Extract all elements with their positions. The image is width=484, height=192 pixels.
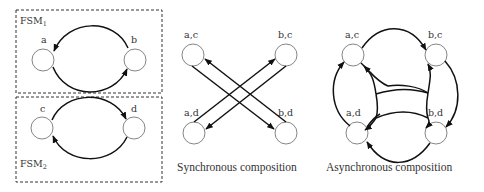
state-c (31, 117, 53, 139)
async-inner-right (427, 93, 429, 118)
sync-state-bc (275, 44, 297, 66)
state-b (124, 49, 146, 71)
sync-caption: Synchronous composition (177, 161, 297, 174)
sync-state-ac (182, 44, 204, 66)
state-d (123, 117, 145, 139)
async-transition-bc-to-bd (445, 61, 458, 127)
async-inner-bottom (376, 112, 428, 118)
sync-label-ad: a,d (184, 107, 199, 118)
sync-label-bd: b,d (278, 107, 293, 118)
async-inner-top (376, 89, 428, 94)
transition-a-to-b (53, 67, 127, 92)
sync-transition-ad-to-bc (194, 59, 275, 122)
async-label-ac: a,c (345, 29, 359, 40)
async-caption: Asynchronous composition (326, 161, 452, 174)
fsm1-panel: FSM1 a b (16, 10, 162, 93)
transition-c-to-d (52, 97, 126, 120)
async-transition-ac-to-bc-inner (428, 64, 430, 93)
async-transition-bd-to-ad (367, 142, 430, 162)
transition-b-to-a (54, 26, 128, 51)
state-a (32, 49, 54, 71)
async-label-bd: b,d (428, 107, 443, 118)
async-transition-ac-to-bc (362, 29, 426, 50)
async-label-ad: a,d (346, 107, 361, 118)
async-inner-ac-left (361, 63, 376, 94)
asynchronous-composition: a,c b,c a,d b,d Asynchronous composition (326, 29, 458, 174)
async-state-bc (425, 44, 447, 66)
composition-diagram: FSM1 a b c d FSM2 a,c b,c a,d b,d Synchr… (0, 0, 484, 192)
sync-transition-bd-to-ac (205, 59, 286, 122)
state-label-c: c (40, 103, 45, 114)
synchronous-composition: a,c b,c a,d b,d Synchronous composition (177, 29, 297, 174)
transition-d-to-c (53, 136, 127, 159)
fsm2-label: FSM2 (20, 158, 47, 171)
sync-transition-ac-to-bd (192, 66, 274, 129)
state-label-b: b (131, 34, 137, 45)
state-label-d: d (131, 103, 137, 114)
state-label-a: a (41, 34, 47, 45)
async-state-ac (342, 44, 364, 66)
sync-transition-bc-to-ad (206, 66, 286, 129)
sync-state-ad (183, 122, 205, 144)
sync-state-bd (275, 122, 297, 144)
fsm2-panel: c d FSM2 (16, 97, 162, 182)
async-label-bc: b,c (428, 29, 442, 40)
sync-label-bc: b,c (278, 29, 292, 40)
fsm1-label: FSM1 (20, 15, 47, 28)
sync-label-ac: a,c (184, 29, 198, 40)
fsm2-dashed-box (16, 97, 162, 182)
async-transition-to-ad (365, 118, 376, 130)
async-inner-left (376, 94, 378, 118)
